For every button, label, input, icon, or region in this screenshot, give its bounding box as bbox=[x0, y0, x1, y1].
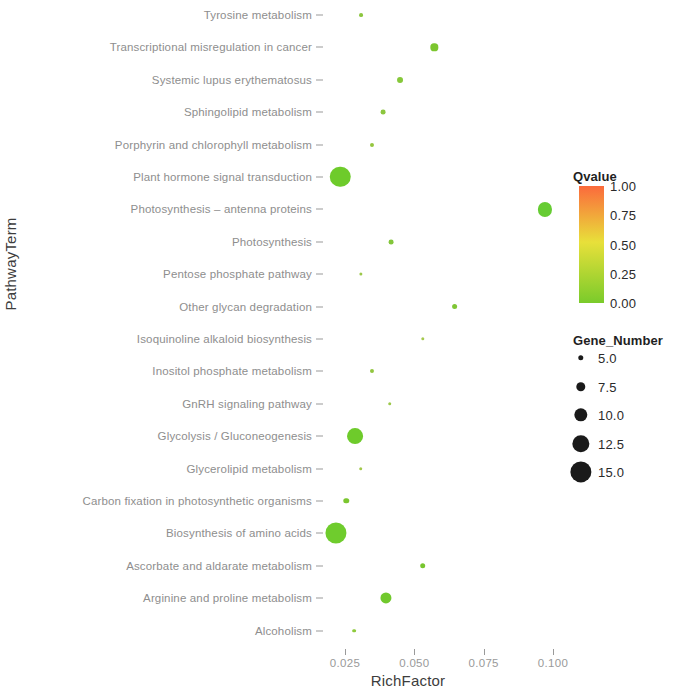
qvalue-colorbar bbox=[579, 186, 604, 303]
y-axis-tick-label: Photosynthesis – antenna proteins bbox=[0, 203, 312, 215]
y-axis-tick-mark bbox=[316, 177, 323, 178]
gene-number-legend-dot bbox=[576, 382, 585, 391]
data-point[interactable] bbox=[431, 44, 438, 51]
data-point[interactable] bbox=[538, 202, 552, 216]
y-axis-tick-label: Porphyrin and chlorophyll metabolism bbox=[0, 139, 312, 151]
data-point[interactable] bbox=[330, 167, 350, 187]
data-point[interactable] bbox=[388, 402, 392, 406]
y-axis-tick-label: Arginine and proline metabolism bbox=[0, 592, 312, 604]
gene-number-legend-label: 12.5 bbox=[598, 436, 624, 451]
bubble-chart: PathwayTerm Tyrosine metabolismTranscrip… bbox=[0, 0, 676, 693]
gene-number-legend-label: 15.0 bbox=[598, 465, 624, 480]
x-axis-tick-mark bbox=[484, 649, 485, 655]
data-point[interactable] bbox=[326, 523, 347, 544]
y-axis-tick-mark bbox=[316, 630, 323, 631]
y-axis-tick-label: Carbon fixation in photosynthetic organi… bbox=[0, 495, 312, 507]
x-axis-tick-mark bbox=[414, 649, 415, 655]
data-point[interactable] bbox=[347, 428, 363, 444]
y-axis-tick-mark bbox=[316, 436, 323, 437]
qvalue-legend-label: 0.50 bbox=[610, 237, 636, 252]
data-point[interactable] bbox=[359, 467, 363, 471]
y-axis-tick-label: Ascorbate and aldarate metabolism bbox=[0, 560, 312, 572]
y-axis-tick-mark bbox=[316, 533, 323, 534]
data-point[interactable] bbox=[380, 593, 391, 604]
y-axis-tick-label: Biosynthesis of amino acids bbox=[0, 527, 312, 539]
y-axis-tick-mark bbox=[316, 47, 323, 48]
x-axis-tick-mark bbox=[345, 649, 346, 655]
y-axis-tick-label: Tyrosine metabolism bbox=[0, 9, 312, 21]
x-axis-tick-mark bbox=[553, 649, 554, 655]
y-axis-tick-mark bbox=[316, 598, 323, 599]
gene-number-legend-dot bbox=[578, 355, 583, 360]
y-axis-tick-mark bbox=[316, 565, 323, 566]
y-axis-tick-label: Alcoholism bbox=[0, 625, 312, 637]
y-axis-tick-mark bbox=[316, 274, 323, 275]
y-axis-tick-label: Photosynthesis bbox=[0, 236, 312, 248]
y-axis-tick-label: Plant hormone signal transduction bbox=[0, 171, 312, 183]
data-point[interactable] bbox=[421, 337, 424, 340]
x-axis-tick-label: 0.050 bbox=[399, 657, 429, 669]
gene-number-legend-dot bbox=[574, 408, 587, 421]
data-point[interactable] bbox=[420, 563, 426, 569]
data-point[interactable] bbox=[370, 143, 374, 147]
data-point[interactable] bbox=[343, 498, 348, 503]
data-point[interactable] bbox=[388, 239, 393, 244]
data-point[interactable] bbox=[397, 77, 403, 83]
data-point[interactable] bbox=[452, 304, 458, 310]
y-axis-tick-mark bbox=[316, 468, 323, 469]
gene-number-legend-label: 5.0 bbox=[598, 351, 617, 366]
y-axis-tick-mark bbox=[316, 112, 323, 113]
x-axis-tick-label: 0.075 bbox=[469, 657, 499, 669]
x-axis-tick-label: 0.100 bbox=[538, 657, 568, 669]
y-axis-tick-label: Pentose phosphate pathway bbox=[0, 268, 312, 280]
gene-number-legend-label: 10.0 bbox=[598, 408, 624, 423]
y-axis-tick-mark bbox=[316, 209, 323, 210]
y-axis-tick-mark bbox=[316, 144, 323, 145]
data-point[interactable] bbox=[352, 629, 356, 633]
y-axis-tick-label: Isoquinoline alkaloid biosynthesis bbox=[0, 333, 312, 345]
qvalue-legend-label: 1.00 bbox=[610, 179, 636, 194]
gene-number-legend-dot bbox=[572, 435, 589, 452]
x-axis-tick-label: 0.025 bbox=[330, 657, 360, 669]
y-axis-tick-mark bbox=[316, 15, 323, 16]
y-axis-tick-mark bbox=[316, 241, 323, 242]
y-axis-tick-mark bbox=[316, 339, 323, 340]
y-axis-tick-mark bbox=[316, 501, 323, 502]
y-axis-tick-mark bbox=[316, 371, 323, 372]
data-point[interactable] bbox=[370, 369, 374, 373]
data-point[interactable] bbox=[359, 13, 363, 17]
y-axis-tick-label: Glycolysis / Gluconeogenesis bbox=[0, 430, 312, 442]
x-axis-title-text: RichFactor bbox=[231, 672, 446, 689]
y-axis-tick-label: Inositol phosphate metabolism bbox=[0, 365, 312, 377]
gene-number-legend-title: Gene_Number bbox=[573, 333, 663, 348]
y-axis-tick-mark bbox=[316, 403, 323, 404]
y-axis-tick-label: Other glycan degradation bbox=[0, 301, 312, 313]
y-axis-tick-mark bbox=[316, 306, 323, 307]
y-axis-tick-label: Sphingolipid metabolism bbox=[0, 106, 312, 118]
gene-number-legend-label: 7.5 bbox=[598, 379, 617, 394]
data-point[interactable] bbox=[381, 110, 386, 115]
y-axis-tick-label: Systemic lupus erythematosus bbox=[0, 74, 312, 86]
y-axis-tick-label: GnRH signaling pathway bbox=[0, 398, 312, 410]
qvalue-legend-label: 0.00 bbox=[610, 296, 636, 311]
data-point[interactable] bbox=[359, 273, 362, 276]
qvalue-legend-label: 0.75 bbox=[610, 208, 636, 223]
y-axis-tick-label: Transcriptional misregulation in cancer bbox=[0, 41, 312, 53]
y-axis-tick-mark bbox=[316, 79, 323, 80]
qvalue-legend-label: 0.25 bbox=[610, 266, 636, 281]
y-axis-tick-label: Glycerolipid metabolism bbox=[0, 463, 312, 475]
x-axis-title: RichFactor bbox=[0, 672, 676, 689]
gene-number-legend-dot bbox=[570, 461, 591, 482]
